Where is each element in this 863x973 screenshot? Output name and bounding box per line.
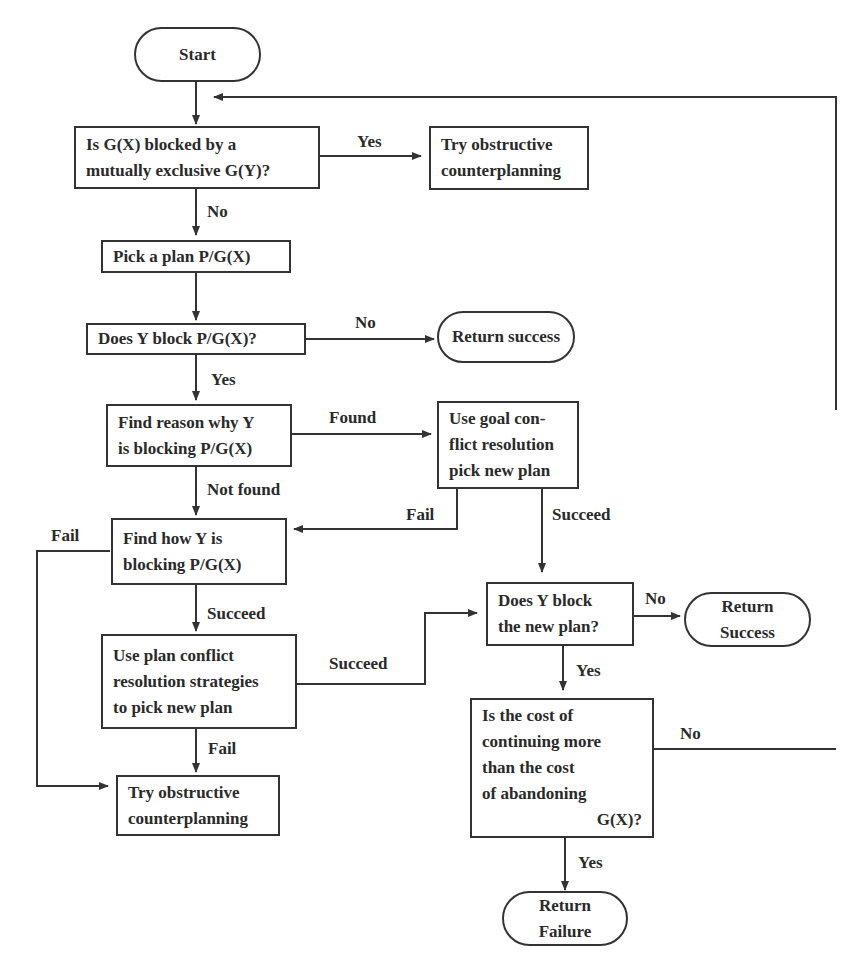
terminal-return-success-1: Return success (437, 311, 575, 363)
edge-label-how-succeed: Succeed (207, 604, 266, 624)
process-pick-plan: Pick a plan P/G(X) (101, 240, 291, 273)
node-text: Find how Y is (123, 526, 275, 552)
edge-label-goal-succeed: Succeed (552, 505, 611, 525)
edge-label-new-plan-yes: Yes (576, 661, 601, 681)
node-text: the new plan? (498, 614, 622, 640)
process-find-how: Find how Y is blocking P/G(X) (111, 518, 287, 585)
node-text: than the cost (482, 755, 642, 781)
process-plan-conflict-resolution: Use plan conflict resolution strategies … (101, 634, 297, 729)
node-text: Use goal con- (449, 406, 567, 432)
node-text: Success (720, 620, 775, 646)
node-text: Pick a plan P/G(X) (113, 244, 279, 270)
node-text: Failure (539, 919, 592, 945)
node-text: continuing more (482, 729, 642, 755)
process-find-reason: Find reason why Y is blocking P/G(X) (106, 404, 292, 467)
node-text: Try obstructive (441, 132, 577, 158)
edge-label-y-block-yes: Yes (211, 370, 236, 390)
edge-label-plan-fail: Fail (208, 739, 236, 759)
node-text: mutually exclusive G(Y)? (86, 158, 308, 184)
node-text: counterplanning (441, 158, 577, 184)
node-text: of abandoning (482, 781, 642, 807)
node-text: Use plan conflict (113, 643, 285, 669)
node-text: G(X)? (482, 807, 642, 833)
node-text: is blocking P/G(X) (118, 436, 280, 462)
node-text: to pick new plan (113, 695, 285, 721)
node-text: Return (539, 893, 591, 919)
edge-label-y-block-no: No (355, 313, 376, 333)
process-try-obstructive-bottom: Try obstructive counterplanning (116, 775, 280, 836)
decision-y-blocks-plan: Does Y block P/G(X)? (86, 323, 306, 355)
node-text: blocking P/G(X) (123, 552, 275, 578)
edge-label-cost-yes: Yes (578, 853, 603, 873)
node-text: pick new plan (449, 458, 567, 484)
edge-label-plan-succeed: Succeed (329, 654, 388, 674)
node-text: Try obstructive (128, 780, 268, 806)
edge-label-blocked-no: No (207, 202, 228, 222)
decision-goal-blocked: Is G(X) blocked by a mutually exclusive … (74, 126, 320, 189)
flowchart-canvas: Start Is G(X) blocked by a mutually excl… (0, 0, 863, 973)
edge-label-reason-found: Found (329, 408, 376, 428)
process-goal-conflict-resolution: Use goal con- flict resolution pick new … (437, 401, 579, 489)
node-text: Does Y block (498, 588, 622, 614)
terminal-return-success-2: Return Success (684, 592, 811, 647)
node-text: Return success (452, 324, 560, 350)
edge-label-new-plan-no: No (645, 589, 666, 609)
edge-label-how-fail: Fail (51, 526, 79, 546)
process-try-obstructive-top: Try obstructive counterplanning (429, 126, 589, 190)
node-text: flict resolution (449, 432, 567, 458)
node-text: Start (179, 42, 216, 68)
node-text: Is the cost of (482, 703, 642, 729)
node-text: Return (722, 594, 774, 620)
node-text: counterplanning (128, 806, 268, 832)
terminal-return-failure: Return Failure (502, 891, 628, 946)
edge-label-reason-not-found: Not found (207, 480, 280, 500)
node-text: resolution strategies (113, 669, 285, 695)
node-text: Find reason why Y (118, 410, 280, 436)
node-text: Is G(X) blocked by a (86, 132, 308, 158)
edge-label-blocked-yes: Yes (357, 132, 382, 152)
edge-label-cost-no: No (680, 724, 701, 744)
decision-cost-comparison: Is the cost of continuing more than the … (470, 698, 654, 838)
edge-label-goal-fail: Fail (406, 505, 434, 525)
start-terminal: Start (134, 27, 261, 82)
decision-y-blocks-new-plan: Does Y block the new plan? (486, 582, 634, 646)
node-text: Does Y block P/G(X)? (98, 326, 294, 352)
